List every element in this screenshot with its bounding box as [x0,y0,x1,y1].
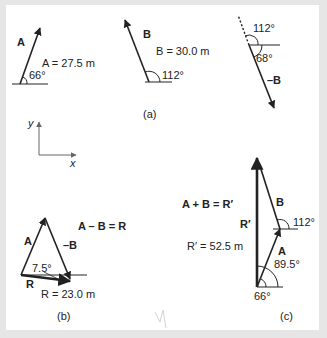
b-label-neg-b: –B [63,239,77,251]
vector-b-magnitude: B = 30.0 m [156,45,210,57]
vector-b-angle: 112° [162,69,184,81]
panel-b-group: A – B = R A –B 7.5° R R = 23.0 m (b) [21,218,126,322]
vector-a-label: A [17,36,25,48]
axes-indicator: y x [27,117,76,169]
b-label-r: R [26,278,34,290]
vector-neg-b-group: 112° 68° –B [238,15,281,108]
c-equation: A + B = R′ [182,198,233,210]
b-equation: A – B = R [78,220,126,232]
vector-diagram: A A = 27.5 m 66° B B = 30.0 m 112° 112° … [0,0,327,338]
caption-a: (a) [143,108,156,120]
c-angle-r: 89.5° [274,258,300,270]
neg-b-angle-bottom: 68° [256,52,273,64]
b-label-a: A [24,235,32,247]
caption-b: (b) [57,310,70,322]
vector-a-group: A A = 27.5 m 66° [12,28,95,84]
b-angle: 7.5° [32,262,52,274]
scribble-mark [155,310,166,328]
dotted-b-extension [238,15,249,45]
c-angle-a: 66° [254,290,271,302]
caption-c: (c) [280,310,293,322]
c-angle-arc-a [261,279,266,287]
angle-arc-a [23,77,27,84]
neg-b-label: –B [267,74,281,86]
c-angle-b: 112° [293,216,315,228]
c-magnitude: R′ = 52.5 m [187,240,243,252]
b-magnitude: R = 23.0 m [41,288,95,300]
vector-a-magnitude: A = 27.5 m [42,57,95,69]
y-axis-label: y [27,117,35,129]
panel-c-group: A + B = R′ R′ R′ = 52.5 m B 112° A 89.5°… [182,158,315,322]
c-label-r-prime: R′ [240,218,251,230]
x-axis-label: x [69,157,76,169]
c-label-a: A [278,245,286,257]
neg-b-angle-top: 112° [253,22,275,34]
vector-b-label: B [143,28,151,40]
vector-a-angle: 66° [29,69,46,81]
vector-b-group: B B = 30.0 m 112° [125,20,210,82]
c-label-b: B [276,196,284,208]
